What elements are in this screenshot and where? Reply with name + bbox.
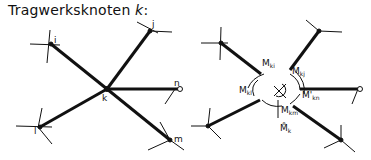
moment-label-kj: Mkj	[292, 66, 305, 78]
node-label-i: i	[54, 35, 57, 45]
moment-label-kl: Mkl	[239, 85, 252, 96]
moment-label-ki: Mki	[262, 58, 275, 69]
left-node-diagram	[16, 22, 184, 150]
moment-label-k: M̊k	[280, 122, 292, 134]
moment-label-kn: M'kn	[302, 90, 320, 101]
node-label-n: n	[174, 78, 180, 88]
right-node-diagram	[191, 20, 363, 152]
node-label-m: m	[174, 134, 183, 144]
node-label-l: l	[34, 126, 37, 136]
center-node-label-k: k	[102, 93, 108, 103]
node-label-j: j	[151, 19, 155, 29]
structural-node-diagram: i j n l m k Mki Mkj Mkl M'k	[0, 0, 371, 160]
